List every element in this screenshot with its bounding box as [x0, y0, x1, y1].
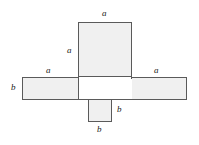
label-left-face-width: a — [46, 66, 51, 75]
right-face-rectangle — [131, 77, 187, 100]
label-left-face-height: b — [11, 83, 16, 92]
label-top-face-height: a — [67, 46, 72, 55]
net-diagram: a a a b a b b — [0, 0, 199, 145]
label-top-face-width: a — [102, 9, 107, 18]
left-face-rectangle — [22, 77, 79, 100]
center-face-region — [80, 79, 132, 99]
label-bottom-face-width: b — [97, 125, 102, 134]
label-right-face-width: a — [154, 66, 159, 75]
label-bottom-face-height: b — [117, 105, 122, 114]
top-face-rectangle — [78, 22, 132, 77]
bottom-face-square — [88, 99, 112, 122]
